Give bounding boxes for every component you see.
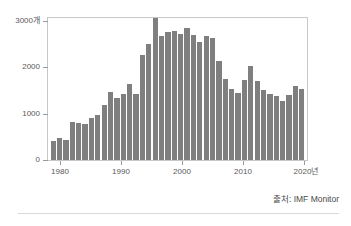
x-axis-tick-1990	[121, 161, 122, 165]
bar-1984	[76, 123, 81, 160]
x-axis-tick-2000	[182, 161, 183, 165]
bar-2005	[210, 38, 215, 160]
bar-2016	[280, 101, 285, 160]
bottom-divider	[18, 213, 339, 214]
bar-1999	[172, 31, 177, 160]
bar-2010	[242, 80, 247, 160]
bar-2018	[293, 86, 298, 160]
x-axis-label-2010: 2010	[234, 167, 252, 176]
bar-2012	[255, 81, 260, 160]
bar-2000	[178, 34, 183, 160]
bar-2008	[229, 89, 234, 160]
bar-2007	[223, 79, 228, 160]
x-axis-label-2000: 2000	[173, 167, 191, 176]
bar-2019	[299, 89, 304, 160]
bar-1996	[153, 18, 158, 160]
bar-2015	[274, 96, 279, 160]
bar-2004	[204, 36, 209, 160]
source-note: 출처: IMF Monitor	[273, 192, 339, 204]
bar-1991	[121, 94, 126, 160]
y-axis-label-2000: 2000	[22, 63, 40, 71]
bar-1986	[89, 118, 94, 160]
bar-2001	[184, 28, 189, 160]
bar-1990	[114, 98, 119, 160]
x-axis-tick-1980	[60, 161, 61, 165]
bar-1993	[133, 94, 138, 160]
x-axis-label-1980: 1980	[51, 167, 69, 176]
bar-1994	[140, 55, 145, 160]
bar-1988	[102, 105, 107, 160]
x-axis-label-2020: 2020년	[294, 167, 319, 176]
chart-figure: 3000개 2000 1000 0 1980 1990 2000 2010 20…	[0, 0, 351, 226]
bar-2003	[197, 42, 202, 160]
y-axis-label-3000: 3000개	[15, 17, 40, 25]
y-axis-label-1000: 1000	[22, 110, 40, 118]
bar-1989	[108, 92, 113, 160]
bar-2011	[248, 66, 253, 160]
bar-series	[48, 18, 307, 160]
bar-1980	[51, 141, 56, 160]
x-axis-label-1990: 1990	[112, 167, 130, 176]
bar-1981	[57, 138, 62, 160]
bar-1992	[127, 84, 132, 160]
bar-2002	[191, 35, 196, 160]
bar-2009	[235, 93, 240, 160]
bar-2014	[267, 94, 272, 160]
bar-1998	[165, 32, 170, 160]
bar-1985	[82, 124, 87, 160]
x-axis-tick-2010	[243, 161, 244, 165]
bar-2017	[286, 95, 291, 160]
bar-1983	[70, 122, 75, 160]
bar-1987	[95, 115, 100, 160]
y-axis-tick-0	[43, 160, 48, 161]
bar-2013	[261, 90, 266, 160]
bar-1997	[159, 36, 164, 160]
bar-1982	[63, 140, 68, 160]
x-axis-tick-2020	[304, 161, 305, 165]
bar-1995	[146, 44, 151, 160]
bar-2006	[216, 61, 221, 160]
y-axis-label-0: 0	[36, 156, 40, 164]
